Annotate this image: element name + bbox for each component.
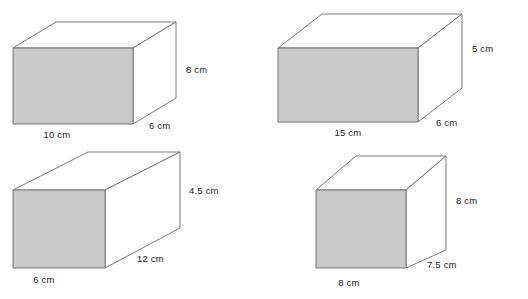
prism-3-width-label: 6 cm	[33, 274, 54, 285]
prism-3-front-face	[13, 190, 105, 268]
prism-2-width-label: 15 cm	[335, 127, 362, 138]
prism-1-front-face	[13, 48, 133, 124]
prism-3-height-label: 4.5 cm	[189, 185, 219, 196]
prism-4-depth-label: 7.5 cm	[427, 259, 457, 270]
prism-4-width-label: 8 cm	[338, 277, 359, 288]
prism-1-height-label: 8 cm	[186, 64, 207, 75]
prism-2-front-face	[278, 48, 418, 122]
prism-diagram-canvas: 8 cm 10 cm 6 cm 5 cm 15 cm 6 cm 4.5 cm 6…	[0, 0, 528, 299]
prism-1-group: 8 cm 10 cm 6 cm	[13, 22, 207, 140]
prism-figure-sheet: 8 cm 10 cm 6 cm 5 cm 15 cm 6 cm 4.5 cm 6…	[0, 0, 528, 299]
prism-4-height-label: 8 cm	[456, 195, 477, 206]
prism-3-depth-label: 12 cm	[137, 253, 164, 264]
prism-2-group: 5 cm 15 cm 6 cm	[278, 14, 493, 138]
prism-2-height-label: 5 cm	[472, 43, 493, 54]
prism-2-depth-label: 6 cm	[436, 117, 457, 128]
prism-3-group: 4.5 cm 6 cm 12 cm	[13, 152, 219, 285]
prism-1-depth-label: 6 cm	[149, 120, 170, 131]
prism-1-width-label: 10 cm	[44, 129, 71, 140]
prism-4-group: 8 cm 8 cm 7.5 cm	[316, 156, 477, 288]
prism-4-front-face	[316, 190, 406, 268]
